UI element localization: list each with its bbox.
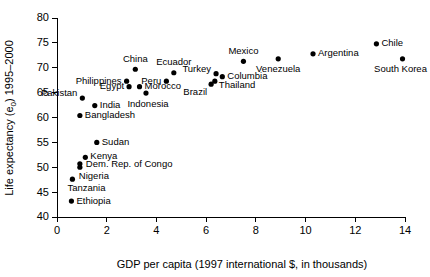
point-label-philippines: Philippines [76, 75, 122, 86]
x-tick-label-6: 6 [203, 224, 209, 236]
point-marker-india [92, 103, 97, 108]
y-tick-label-80: 80 [37, 11, 49, 23]
point-marker-kenya [83, 155, 88, 160]
point-label-pakistan: Pakistan [41, 87, 77, 98]
point-label-turkey: Turkey [182, 63, 211, 74]
y-tick-label-45: 45 [37, 186, 49, 198]
point-label-ethiopia: Ethiopia [76, 195, 111, 206]
data-point: South Korea [374, 56, 428, 74]
point-marker-dem-rep-of-congo [77, 161, 82, 166]
point-marker-argentina [310, 51, 315, 56]
x-tick-label-2: 2 [104, 224, 110, 236]
y-axis-title-main: Life expectancy (e [3, 106, 15, 195]
point-marker-venezuela [276, 56, 281, 61]
point-marker-sudan [94, 140, 99, 145]
data-point: Venezuela [256, 56, 301, 74]
point-marker-mexico [241, 59, 246, 64]
x-tick-label-8: 8 [253, 224, 259, 236]
point-marker-south-korea [400, 56, 405, 61]
data-point: China [123, 53, 149, 72]
data-point: Ethiopia [69, 195, 112, 206]
data-point: Pakistan [41, 87, 85, 101]
y-axis-title: Life expectancy (e0) 1995–2000 [3, 40, 18, 196]
y-axis-title-tail: ) 1995–2000 [3, 40, 15, 102]
data-point: Argentina [310, 47, 359, 58]
point-marker-ecuador [171, 70, 176, 75]
point-marker-egypt [126, 84, 131, 89]
point-marker-indonesia [143, 91, 148, 96]
x-tick-label-12: 12 [349, 224, 361, 236]
scatter-chart: 404550556065707580 02468101214 EthiopiaT… [0, 0, 430, 277]
point-marker-turkey [213, 71, 218, 76]
point-label-brazil: Brazil [183, 86, 207, 97]
point-label-mexico: Mexico [228, 45, 258, 56]
point-marker-ethiopia [69, 198, 74, 203]
y-tick-label-55: 55 [37, 136, 49, 148]
y-tick-group: 404550556065707580 [37, 11, 57, 222]
x-tick-label-4: 4 [153, 224, 159, 236]
point-label-sudan: Sudan [102, 136, 129, 147]
point-label-venezuela: Venezuela [256, 63, 301, 74]
point-label-china: China [123, 53, 149, 64]
data-point: Indonesia [127, 91, 169, 109]
data-point: Turkey [182, 63, 218, 76]
point-label-kenya: Kenya [90, 150, 118, 161]
point-marker-china [133, 67, 138, 72]
data-point: Philippines [76, 75, 130, 86]
data-point: Mexico [228, 45, 258, 64]
x-axis-title: GDP per capita (1997 international $, in… [117, 258, 368, 270]
y-tick-label-60: 60 [37, 111, 49, 123]
x-tick-label-0: 0 [54, 224, 60, 236]
point-label-south-korea: South Korea [374, 63, 428, 74]
point-marker-thailand [212, 79, 217, 84]
point-label-bangladesh: Bangladesh [85, 109, 135, 120]
point-marker-bangladesh [77, 113, 82, 118]
point-label-indonesia: Indonesia [127, 98, 169, 109]
point-label-chile: Chile [381, 37, 403, 48]
point-marker-pakistan [80, 95, 85, 100]
point-label-tanzania: Tanzania [67, 182, 106, 193]
point-label-argentina: Argentina [318, 47, 359, 58]
point-label-peru: Peru [141, 75, 161, 86]
data-point-group: EthiopiaTanzaniaNigeriaDem. Rep. of Cong… [41, 37, 428, 205]
plot-area: 404550556065707580 02468101214 EthiopiaT… [0, 0, 430, 277]
y-tick-label-70: 70 [37, 61, 49, 73]
data-point: Brazil [183, 82, 213, 97]
point-label-india: India [100, 99, 121, 110]
x-tick-label-10: 10 [299, 224, 311, 236]
point-label-nigeria: Nigeria [79, 170, 110, 181]
x-tick-group: 02468101214 [54, 217, 411, 236]
x-tick-label-14: 14 [399, 224, 411, 236]
data-point: Sudan [94, 136, 129, 147]
y-tick-label-40: 40 [37, 210, 49, 222]
y-tick-label-50: 50 [37, 161, 49, 173]
data-point: Bangladesh [77, 109, 135, 120]
point-marker-chile [374, 41, 379, 46]
point-marker-columbia [220, 74, 225, 79]
data-point: Chile [374, 37, 403, 48]
point-marker-philippines [124, 79, 129, 84]
point-marker-peru [164, 79, 169, 84]
y-tick-label-75: 75 [37, 36, 49, 48]
